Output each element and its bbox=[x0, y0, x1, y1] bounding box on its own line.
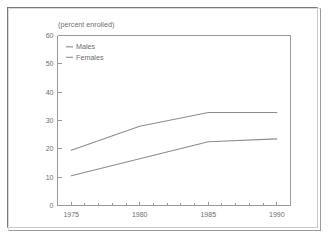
y-tick-label: 40 bbox=[46, 89, 54, 96]
legend-label-males: Males bbox=[76, 42, 96, 51]
y-tick-label: 30 bbox=[46, 117, 54, 124]
x-tick-label: 1990 bbox=[269, 211, 285, 218]
y-tick-label: 50 bbox=[46, 60, 54, 67]
series-line-males bbox=[71, 113, 277, 151]
y-tick-label: 20 bbox=[46, 145, 54, 152]
chart-legend: MalesFemales bbox=[66, 42, 104, 62]
x-tick-label: 1985 bbox=[200, 211, 216, 218]
line-chart: 0102030405060 1975198019851990 (percent … bbox=[0, 0, 329, 237]
y-tick-label: 10 bbox=[46, 174, 54, 181]
y-tick-label: 0 bbox=[50, 202, 54, 209]
legend-label-females: Females bbox=[76, 53, 104, 62]
x-axis-ticks: 1975198019851990 bbox=[63, 202, 284, 218]
series-line-females bbox=[71, 139, 277, 176]
x-tick-label: 1975 bbox=[63, 211, 79, 218]
chart-figure: 0102030405060 1975198019851990 (percent … bbox=[0, 0, 329, 237]
y-tick-label: 60 bbox=[46, 32, 54, 39]
x-tick-label: 1980 bbox=[132, 211, 148, 218]
chart-subtitle: (percent enrolled) bbox=[58, 20, 114, 29]
series-group bbox=[71, 113, 277, 176]
y-axis-ticks: 0102030405060 bbox=[46, 32, 62, 209]
